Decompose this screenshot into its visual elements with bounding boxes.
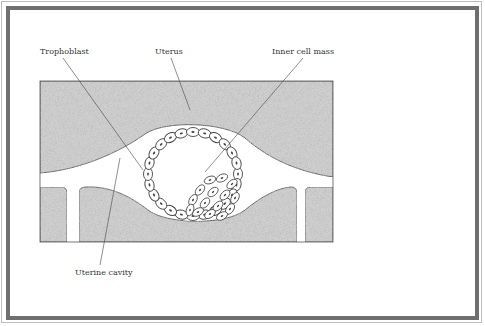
- lower-wall-right: [305, 187, 333, 242]
- lower-wall-left: [40, 187, 67, 242]
- label-uterine-cavity: Uterine cavity: [75, 268, 133, 277]
- label-inner-cell-mass: Inner cell mass: [272, 47, 334, 56]
- blastocyst: [143, 127, 243, 222]
- label-trophoblast: Trophoblast: [40, 47, 90, 56]
- label-uterus: Uterus: [155, 47, 183, 56]
- implantation-diagram: Trophoblast Uterus Inner cell mass Uteri…: [0, 0, 485, 326]
